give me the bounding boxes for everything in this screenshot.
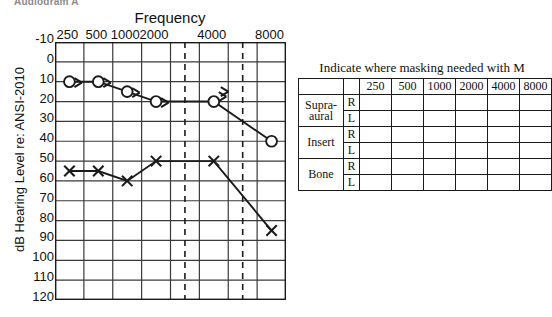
y-tick-30: 30	[40, 110, 54, 125]
y-tick-90: 90	[40, 229, 54, 244]
masking-table: 2505001000200040008000 Supra-auralRLInse…	[298, 78, 552, 191]
x-tick-8000: 8000	[255, 27, 284, 42]
table-ear-label-insert-L: L	[344, 143, 360, 159]
circle-symbol-right-air	[93, 76, 104, 87]
audiogram-svg	[55, 42, 286, 300]
circle-symbol-right-air	[122, 86, 133, 97]
x-tick-2000: 2000	[140, 27, 169, 42]
table-cell-bone-L-2000[interactable]	[456, 175, 488, 191]
table-cell-supraaural-L-500[interactable]	[392, 111, 424, 127]
table-cell-insert-L-1000[interactable]	[424, 143, 456, 159]
masking-table-caption: Indicate where masking needed with M	[298, 60, 546, 76]
y-tick-0: 0	[47, 50, 54, 65]
masking-table-block: Indicate where masking needed with M 250…	[298, 60, 546, 191]
table-device-label-supraaural: Supra-aural	[299, 95, 344, 127]
x-tick-250: 250	[57, 27, 79, 42]
table-cell-insert-L-250[interactable]	[360, 143, 392, 159]
table-cell-bone-R-500[interactable]	[392, 159, 424, 175]
table-cell-insert-L-4000[interactable]	[488, 143, 520, 159]
table-cell-supraaural-L-4000[interactable]	[488, 111, 520, 127]
table-cell-supraaural-L-250[interactable]	[360, 111, 392, 127]
y-tick-120: 120	[32, 289, 54, 304]
table-device-label-insert: Insert	[299, 127, 344, 159]
table-row: InsertR	[299, 127, 552, 143]
circle-symbol-right-air	[64, 76, 75, 87]
table-ear-label-bone-L: L	[344, 175, 360, 191]
chart-x-axis-title: Frequency	[50, 9, 290, 26]
table-cell-supraaural-R-4000[interactable]	[488, 95, 520, 111]
table-cell-insert-L-2000[interactable]	[456, 143, 488, 159]
table-device-label-bone: Bone	[299, 159, 344, 191]
table-freq-header-8000: 8000	[520, 79, 552, 95]
table-freq-header-250: 250	[360, 79, 392, 95]
table-row: BoneR	[299, 159, 552, 175]
table-ear-label-supraaural-L: L	[344, 111, 360, 127]
table-cell-bone-L-4000[interactable]	[488, 175, 520, 191]
table-cell-insert-R-1000[interactable]	[424, 127, 456, 143]
x-tick-1000: 1000	[111, 27, 140, 42]
audiogram-chart: Frequency 2505001000200040008000 -100102…	[0, 0, 300, 317]
table-cell-insert-R-2000[interactable]	[456, 127, 488, 143]
table-freq-header-1000: 1000	[424, 79, 456, 95]
y-tick-80: 80	[40, 209, 54, 224]
table-cell-bone-R-2000[interactable]	[456, 159, 488, 175]
table-freq-header-2000: 2000	[456, 79, 488, 95]
x-axis-tick-labels: 2505001000200040008000	[53, 27, 286, 42]
table-cell-insert-R-500[interactable]	[392, 127, 424, 143]
table-corner-blank-device	[299, 79, 344, 95]
table-cell-bone-L-500[interactable]	[392, 175, 424, 191]
table-cell-supraaural-R-1000[interactable]	[424, 95, 456, 111]
x-tick-500: 500	[85, 27, 107, 42]
table-cell-insert-R-4000[interactable]	[488, 127, 520, 143]
y-tick-100: 100	[32, 249, 54, 264]
table-cell-insert-L-8000[interactable]	[520, 143, 552, 159]
table-cell-bone-R-4000[interactable]	[488, 159, 520, 175]
circle-symbol-right-air	[208, 96, 219, 107]
arrow-marker-4000-upper	[221, 87, 229, 96]
y-tick-110: 110	[33, 269, 54, 284]
table-cell-bone-L-250[interactable]	[360, 175, 392, 191]
y-tick--10: -10	[35, 31, 54, 46]
y-tick-60: 60	[40, 169, 54, 184]
y-tick-50: 50	[40, 150, 54, 165]
table-cell-bone-R-8000[interactable]	[520, 159, 552, 175]
circle-symbol-right-air	[266, 136, 277, 147]
table-cell-insert-R-8000[interactable]	[520, 127, 552, 143]
table-cell-bone-L-8000[interactable]	[520, 175, 552, 191]
y-tick-10: 10	[40, 70, 54, 85]
x-tick-4000: 4000	[197, 27, 226, 42]
table-freq-header-500: 500	[392, 79, 424, 95]
table-cell-supraaural-L-1000[interactable]	[424, 111, 456, 127]
table-cell-bone-L-1000[interactable]	[424, 175, 456, 191]
table-cell-bone-R-250[interactable]	[360, 159, 392, 175]
table-cell-supraaural-R-250[interactable]	[360, 95, 392, 111]
y-tick-40: 40	[40, 130, 54, 145]
table-cell-supraaural-R-500[interactable]	[392, 95, 424, 111]
y-tick-20: 20	[40, 90, 54, 105]
table-cell-bone-R-1000[interactable]	[424, 159, 456, 175]
table-cell-insert-L-500[interactable]	[392, 143, 424, 159]
table-corner-blank-ear	[344, 79, 360, 95]
table-freq-header-4000: 4000	[488, 79, 520, 95]
audiogram-plot-area	[55, 42, 286, 300]
circle-symbol-right-air	[151, 96, 162, 107]
table-cell-supraaural-L-2000[interactable]	[456, 111, 488, 127]
chart-y-axis-title: dB Hearing Level re: ANSI-2010	[12, 45, 27, 275]
table-cell-supraaural-R-2000[interactable]	[456, 95, 488, 111]
table-ear-label-bone-R: R	[344, 159, 360, 175]
x-symbol-left-air	[266, 225, 276, 235]
table-cell-insert-R-250[interactable]	[360, 127, 392, 143]
table-ear-label-supraaural-R: R	[344, 95, 360, 111]
table-ear-label-insert-R: R	[344, 127, 360, 143]
table-cell-supraaural-L-8000[interactable]	[520, 111, 552, 127]
masking-table-header-row: 2505001000200040008000	[299, 79, 552, 95]
y-tick-70: 70	[40, 189, 54, 204]
table-cell-supraaural-R-8000[interactable]	[520, 95, 552, 111]
table-row: Supra-auralR	[299, 95, 552, 111]
